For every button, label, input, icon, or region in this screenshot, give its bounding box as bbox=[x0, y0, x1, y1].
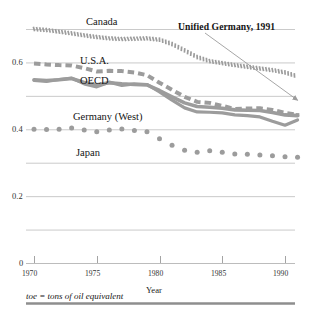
series-label-germany-west: Germany (West) bbox=[73, 112, 142, 123]
series-layer bbox=[32, 27, 301, 160]
chart-svg bbox=[0, 0, 312, 312]
x-tick-label-1970: 1970 bbox=[22, 270, 37, 278]
y-tick-label-0: 0 bbox=[19, 259, 23, 268]
x-tick-label-1985: 1985 bbox=[211, 270, 226, 278]
chart-footnote: toe = tons of oil equivalent bbox=[26, 292, 123, 301]
x-tick-label-1990: 1990 bbox=[273, 270, 288, 278]
energy-intensity-chart: Canada U.S.A. OECD Germany (West) Japan … bbox=[0, 0, 312, 312]
y-tick-label-0.4: 0.4 bbox=[12, 125, 23, 134]
series-endpoint-marker bbox=[296, 113, 300, 117]
series-label-japan: Japan bbox=[76, 148, 100, 159]
series-label-usa: U.S.A. bbox=[80, 56, 109, 67]
annotation-unified-germany: Unified Germany, 1991 bbox=[178, 22, 275, 32]
x-tick-label-1975: 1975 bbox=[85, 270, 100, 278]
y-tick-label-0.2: 0.2 bbox=[12, 192, 23, 201]
series-label-oecd: OECD bbox=[80, 76, 109, 87]
chart-plot-area bbox=[0, 0, 312, 312]
annotation-arrow bbox=[205, 33, 298, 100]
x-tick-label-1980: 1980 bbox=[148, 270, 163, 278]
series-label-canada: Canada bbox=[86, 17, 118, 28]
x-axis-title: Year bbox=[146, 286, 162, 295]
x-axis bbox=[35, 256, 286, 263]
y-tick-label-0.6: 0.6 bbox=[12, 58, 23, 67]
series-japan bbox=[32, 125, 301, 159]
